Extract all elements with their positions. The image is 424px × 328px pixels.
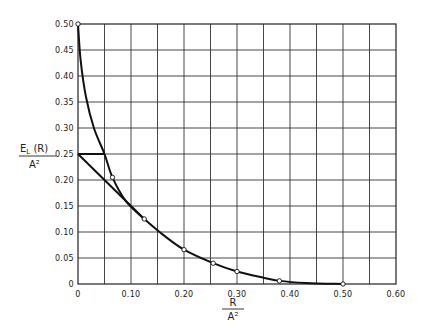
data-point-marker (235, 269, 239, 273)
x-axis-label-numerator: R (230, 297, 237, 308)
y-tick-label: 0.20 (55, 176, 74, 185)
data-point-marker (277, 279, 281, 283)
grid (78, 24, 396, 284)
y-tick-label: 0.15 (55, 202, 74, 211)
y-tick-label: 0.50 (55, 20, 74, 29)
series-lower-curve (144, 219, 343, 284)
x-tick-label: 0.60 (386, 290, 405, 299)
y-tick-label: 0.05 (55, 254, 74, 263)
y-tick-label: 0.30 (55, 124, 74, 133)
y-tick-label: 0.25 (55, 150, 74, 159)
x-tick-labels: 00.100.200.300.400.500.60 (75, 290, 405, 299)
x-tick-label: 0.50 (333, 290, 352, 299)
series-straight-line (78, 154, 144, 219)
data-point-marker (110, 175, 114, 179)
x-tick-label: 0.10 (121, 290, 140, 299)
y-tick-label: 0 (69, 280, 74, 289)
data-point-marker (76, 22, 80, 26)
x-axis-label-denominator: A² (228, 311, 239, 322)
series-upper-curve (78, 24, 144, 219)
y-axis-label-numerator: EL (R) (20, 143, 48, 156)
data-point-marker (341, 282, 345, 286)
data-point-marker (211, 261, 215, 265)
data-point-marker (142, 217, 146, 221)
y-tick-label: 0.45 (55, 46, 74, 55)
x-tick-label: 0.40 (280, 290, 299, 299)
y-tick-label: 0.35 (55, 98, 74, 107)
data-point-marker (182, 247, 186, 251)
x-axis-label: R A² (222, 297, 244, 322)
y-tick-label: 0.10 (55, 228, 74, 237)
x-tick-label: 0.20 (174, 290, 193, 299)
y-tick-labels: 00.050.100.150.200.250.300.350.400.450.5… (55, 20, 74, 289)
x-tick-label: 0 (75, 290, 80, 299)
y-tick-label: 0.40 (55, 72, 74, 81)
y-axis-label: EL (R) A² (19, 143, 56, 170)
chart: 00.100.200.300.400.500.60 00.050.100.150… (0, 0, 424, 328)
y-axis-label-denominator: A² (29, 159, 40, 170)
